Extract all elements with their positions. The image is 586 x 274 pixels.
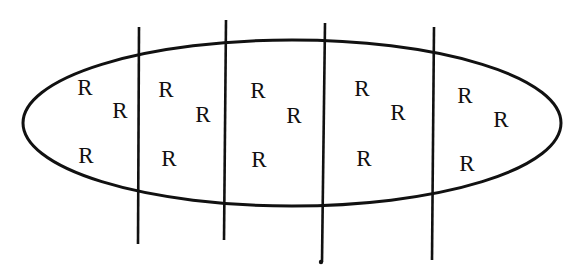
region-1-label: R (78, 144, 93, 167)
diagram-canvas: RRRRRRRRRRRRRRR (0, 0, 586, 274)
region-2-label: R (161, 147, 176, 170)
region-1-label: R (112, 99, 127, 122)
region-2-label: R (195, 103, 210, 126)
region-3-label: R (250, 79, 265, 102)
divider-line-4 (432, 27, 434, 260)
region-4-label: R (354, 77, 369, 100)
divider-line-1 (138, 27, 139, 244)
line-end-dot (319, 260, 323, 264)
region-4-label: R (390, 101, 405, 124)
divider-line-2 (224, 20, 226, 240)
region-5-label: R (457, 84, 472, 107)
region-5-label: R (493, 108, 508, 131)
vertical-dividers (138, 20, 434, 262)
region-1-label: R (77, 76, 92, 99)
divider-line-3 (322, 23, 325, 262)
region-5-label: R (459, 152, 474, 175)
region-2-label: R (158, 78, 173, 101)
region-3-label: R (286, 104, 301, 127)
diagram-shapes (0, 0, 586, 274)
region-4-label: R (356, 147, 371, 170)
region-3-label: R (251, 148, 266, 171)
